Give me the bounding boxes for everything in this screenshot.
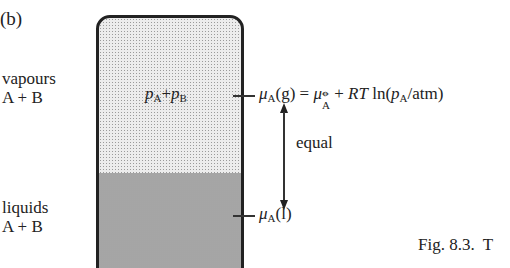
vapour-tick: [233, 95, 255, 97]
vapour-label: vapours A + B: [2, 69, 56, 107]
vapour-label-line1: vapours: [2, 69, 56, 88]
liquid-region: [99, 173, 241, 268]
equal-label: equal: [296, 133, 333, 153]
panel-label: (b): [0, 8, 22, 30]
liquid-tick: [233, 215, 255, 217]
liquid-label-line2: A + B: [2, 217, 48, 236]
partial-pressure-label: pA+pB: [145, 84, 187, 104]
liquid-label-line1: liquids: [2, 198, 48, 217]
liquid-label: liquids A + B: [2, 198, 48, 236]
figure-caption: Fig. 8.3. T pure liquid and (b) a l its …: [418, 197, 493, 268]
double-arrow-line: [283, 112, 285, 204]
vapour-label-line2: A + B: [2, 88, 56, 107]
gas-chemical-potential-equation: μA(g) = μ⦵A + RT ln(pA/atm): [259, 84, 443, 104]
arrow-down-icon: [280, 200, 288, 210]
vessel: [96, 15, 244, 268]
